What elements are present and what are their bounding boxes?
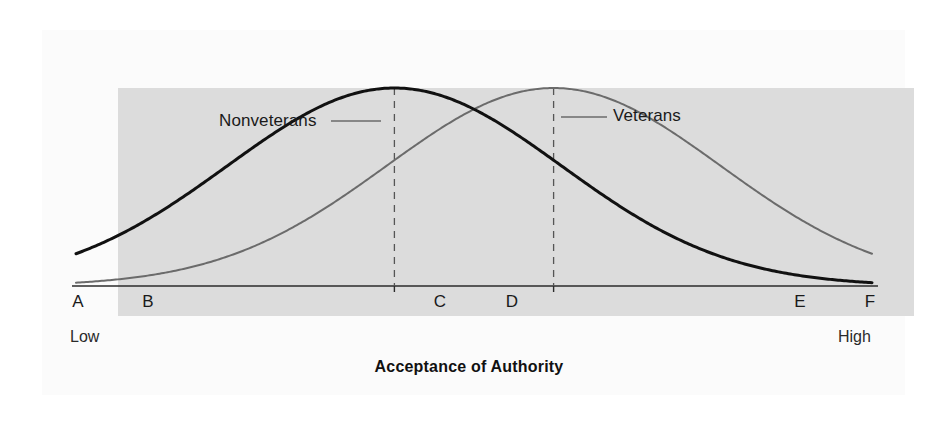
x-axis-title: Acceptance of Authority (0, 358, 938, 376)
x-axis-low-label: Low (70, 328, 99, 346)
series-label-nonveterans: Nonveterans (219, 111, 317, 131)
x-tick-label-e: E (788, 292, 812, 312)
x-tick-label-c: C (428, 292, 452, 312)
x-tick-label-d: D (500, 292, 524, 312)
figure-panel (42, 30, 905, 395)
x-axis-high-label: High (838, 328, 871, 346)
x-tick-label-a: A (66, 292, 90, 312)
x-tick-label-f: F (858, 292, 882, 312)
series-label-veterans: Veterans (613, 106, 681, 126)
x-tick-label-b: B (136, 292, 160, 312)
